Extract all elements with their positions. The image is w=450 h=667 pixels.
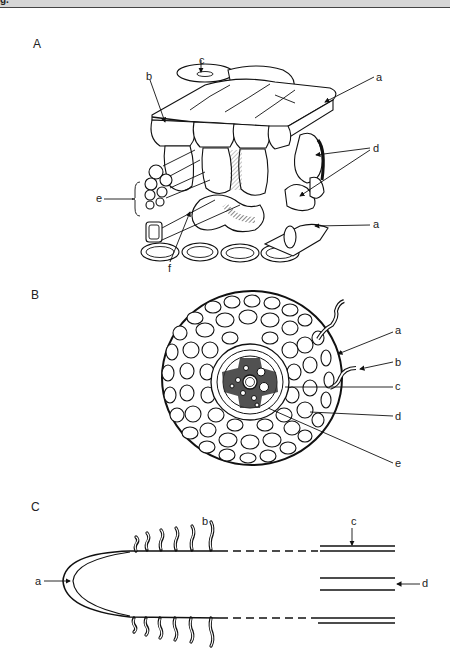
figure-drawing [0, 0, 450, 667]
panel-a-drawing [104, 60, 374, 262]
panel-b-drawing [162, 291, 393, 465]
panel-c-drawing [44, 522, 420, 646]
